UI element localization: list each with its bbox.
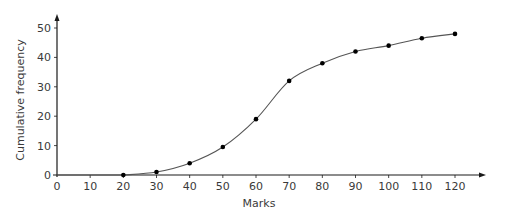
y-tick-label: 20 [37,110,51,123]
x-tick-label: 0 [54,180,61,193]
data-point [287,79,292,84]
data-point [121,173,126,178]
x-tick-label: 70 [282,180,296,193]
x-tick-label: 110 [411,180,432,193]
x-tick-label: 80 [315,180,329,193]
x-axis-label: Marks [243,197,276,210]
data-point [453,32,458,37]
ticks: 010203040506070809010011012001020304050 [37,22,466,193]
data-point [320,61,325,66]
x-tick-label: 100 [378,180,399,193]
data-point [420,36,425,41]
cumulative-frequency-curve [57,34,455,175]
data-point [386,43,391,48]
data-point [221,145,226,150]
data-point [254,117,259,122]
y-tick-label: 30 [37,81,51,94]
x-axis-arrow-icon [479,173,486,178]
y-axis-label: Cumulative frequency [14,39,27,161]
data-point [353,49,358,54]
x-tick-label: 30 [150,180,164,193]
x-tick-label: 40 [183,180,197,193]
x-tick-label: 60 [249,180,263,193]
data-point [154,170,159,175]
x-tick-label: 50 [216,180,230,193]
cumulative-frequency-chart: 010203040506070809010011012001020304050 … [0,0,528,215]
data-point [187,161,192,166]
x-tick-label: 20 [116,180,130,193]
data-points [121,32,457,178]
y-tick-label: 40 [37,51,51,64]
y-tick-label: 10 [37,140,51,153]
y-axis-arrow-icon [55,14,60,21]
x-tick-label: 120 [445,180,466,193]
y-tick-label: 0 [44,169,51,182]
y-tick-label: 50 [37,22,51,35]
x-tick-label: 10 [83,180,97,193]
x-tick-label: 90 [349,180,363,193]
